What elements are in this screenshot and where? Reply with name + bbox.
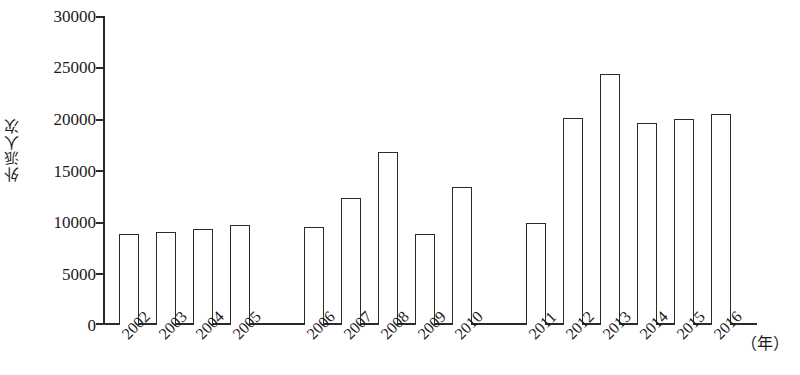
bar-2008 — [378, 152, 398, 325]
y-tick-label-5000: 5000 — [62, 266, 96, 283]
y-tick-mark-30000 — [96, 16, 104, 18]
y-axis-tick-labels: 30000 25000 20000 15000 10000 5000 0 — [26, 0, 96, 375]
bar-2012 — [563, 118, 583, 325]
bar-2013 — [600, 74, 620, 325]
y-tick-label-30000: 30000 — [54, 8, 97, 25]
bar-2010 — [452, 187, 472, 325]
y-tick-label-10000: 10000 — [54, 214, 97, 231]
y-tick-mark-5000 — [96, 273, 104, 275]
x-axis-unit-label: （年） — [741, 336, 789, 352]
y-tick-mark-20000 — [96, 119, 104, 121]
bar-2014 — [637, 123, 657, 325]
y-tick-mark-25000 — [96, 67, 104, 69]
y-tick-mark-0 — [96, 323, 104, 325]
bar-2005 — [230, 225, 250, 325]
bar-2016 — [711, 114, 731, 325]
bar-chart: 外派人次 30000 25000 20000 15000 10000 5000 … — [0, 0, 800, 375]
y-tick-mark-10000 — [96, 222, 104, 224]
y-tick-label-25000: 25000 — [54, 59, 97, 76]
bar-2006 — [304, 227, 324, 325]
bar-2015 — [674, 119, 694, 325]
bar-2007 — [341, 198, 361, 325]
y-tick-mark-15000 — [96, 170, 104, 172]
y-tick-label-20000: 20000 — [54, 111, 97, 128]
plot-area — [103, 16, 757, 325]
y-tick-label-15000: 15000 — [54, 163, 97, 180]
y-tick-label-0: 0 — [88, 317, 97, 334]
bar-2011 — [526, 223, 546, 325]
